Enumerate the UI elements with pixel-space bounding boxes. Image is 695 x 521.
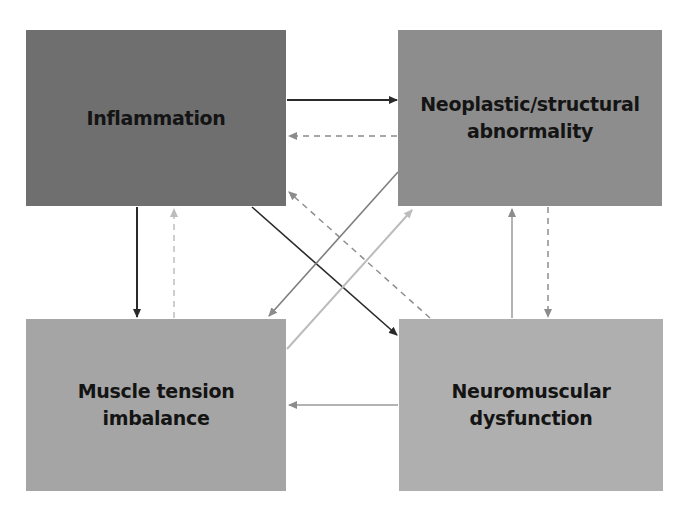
edge-neuromuscular-to-inflammation bbox=[289, 192, 430, 318]
node-neoplastic-structural-abnormality: Neoplastic/structural abnormality bbox=[398, 30, 662, 206]
node-muscle-tension-imbalance: Muscle tension imbalance bbox=[26, 319, 286, 491]
edge-neoplastic-to-muscle-tension bbox=[269, 172, 398, 316]
node-label-line-1: Muscle tension bbox=[78, 378, 235, 405]
edge-inflammation-to-neuromuscular bbox=[252, 207, 397, 335]
node-neuromuscular-dysfunction: Neuromuscular dysfunction bbox=[399, 319, 663, 491]
node-label-line-2: abnormality bbox=[420, 118, 639, 145]
edge-muscle-tension-to-neoplastic bbox=[287, 210, 412, 349]
node-label-line-2: dysfunction bbox=[452, 405, 611, 432]
node-label-line-2: imbalance bbox=[78, 405, 235, 432]
node-label-line-1: Neoplastic/structural bbox=[420, 91, 639, 118]
node-inflammation: Inflammation bbox=[26, 30, 286, 206]
node-label: Inflammation bbox=[86, 105, 225, 132]
node-label-line-1: Neuromuscular bbox=[452, 378, 611, 405]
